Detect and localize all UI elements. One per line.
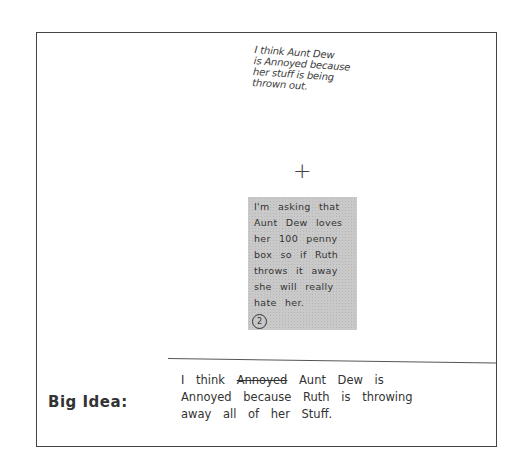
circled-number-badge: 2	[252, 314, 267, 329]
answer-line-3: away all of her Stuff.	[181, 406, 413, 423]
answer-line-1: I think Annoyed Aunt Dew is	[181, 372, 413, 389]
answer-prefix: I think	[181, 373, 225, 387]
big-idea-answer: I think Annoyed Aunt Dew is Annoyed beca…	[181, 372, 413, 423]
evidence-line: Aunt Dew loves	[254, 217, 342, 228]
answer-suffix: Aunt Dew is	[299, 373, 384, 387]
evidence-sticky-note: I'm asking that Aunt Dew loves her 100 p…	[248, 197, 357, 330]
evidence-line: hate her.	[254, 297, 304, 308]
evidence-line: she will really	[254, 281, 333, 292]
plus-icon: +	[293, 160, 311, 182]
big-idea-label: Big Idea:	[48, 393, 128, 411]
struck-word: Annoyed	[237, 373, 288, 387]
evidence-line: box so if Ruth	[254, 249, 338, 260]
evidence-line: her 100 penny	[254, 233, 337, 244]
evidence-line: throws it away	[254, 265, 338, 276]
evidence-line: I'm asking that	[254, 201, 339, 212]
answer-line-2: Annoyed because Ruth is throwing	[181, 389, 413, 406]
top-inference-note: I think Aunt Dew is Annoyed because her …	[252, 44, 351, 95]
